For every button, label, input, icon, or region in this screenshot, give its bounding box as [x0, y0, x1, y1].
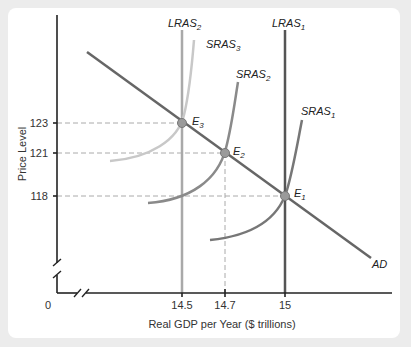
lras1-label: LRAS1 [272, 17, 305, 32]
y-tick-121: 121 [30, 147, 48, 159]
e1-label: E1 [294, 187, 306, 202]
guide-lines [57, 123, 285, 293]
x-tick-14-7: 14.7 [214, 299, 235, 311]
x-axis-label: Real GDP per Year ($ trillions) [148, 318, 295, 330]
y-tick-118: 118 [30, 190, 48, 202]
sras2-label: SRAS2 [236, 68, 271, 83]
y-axis-label: Price Level [16, 127, 28, 181]
ad-label: AD [371, 258, 387, 270]
axis-break-marks [53, 259, 89, 297]
x-tick-0: 0 [45, 299, 51, 311]
sras3-label: SRAS3 [206, 38, 241, 53]
y-tick-123: 123 [30, 117, 48, 129]
sras1-label: SRAS1 [301, 105, 335, 120]
ad-as-diagram: 123 121 118 0 14.5 14.7 15 Real GDP per … [0, 0, 411, 347]
sras1-curve [210, 120, 302, 240]
e3-label: E3 [192, 115, 204, 130]
sras2-curve [148, 82, 238, 203]
point-e3 [178, 119, 187, 128]
lras2-label: LRAS2 [168, 17, 202, 32]
point-e1 [281, 192, 290, 201]
point-e2 [221, 149, 230, 158]
x-tick-15: 15 [279, 299, 291, 311]
x-tick-14-5: 14.5 [171, 299, 192, 311]
